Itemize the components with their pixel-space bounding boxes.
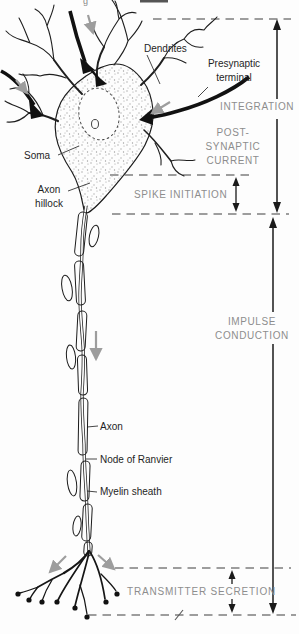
spike-initiation-zone-label: SPIKE INITIATION bbox=[134, 188, 227, 202]
axon-label: Axon bbox=[100, 420, 123, 434]
integration-range-arrow bbox=[273, 19, 281, 213]
presynaptic-terminal-label: Presynaptic terminal bbox=[197, 57, 271, 84]
impulse-conduction-zone-label: IMPULSE CONDUCTION bbox=[204, 315, 299, 343]
myelin-sheath-label: Myelin sheath bbox=[100, 485, 162, 499]
neuron-diagram: g Dendrites Presynaptic terminal Soma Ax… bbox=[0, 0, 299, 634]
post-synaptic-current-zone-label: POST- SYNAPTIC CURRENT bbox=[196, 126, 270, 167]
axon-hillock-label: Axon hillock bbox=[28, 183, 70, 210]
integration-zone-label: INTEGRATION bbox=[220, 100, 294, 114]
cropped-artifact-glyph: g bbox=[83, 0, 88, 6]
node-of-ranvier-label: Node of Ranvier bbox=[100, 453, 172, 467]
dendrites-label: Dendrites bbox=[144, 42, 187, 56]
transmitter-secretion-zone-label: TRANSMITTER SECRETION bbox=[127, 585, 276, 599]
cropped-artifact-bar bbox=[140, 0, 168, 3]
impulse-conduction-range-arrow bbox=[269, 217, 277, 614]
soma-label: Soma bbox=[24, 149, 50, 163]
spike-initiation-range-arrow bbox=[233, 177, 240, 212]
